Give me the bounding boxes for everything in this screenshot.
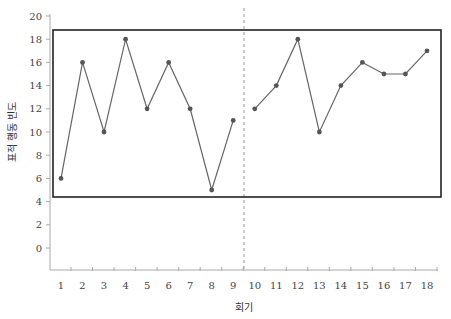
data-point <box>59 176 64 181</box>
data-point <box>80 60 85 65</box>
data-series <box>59 37 430 193</box>
y-tick-label: 20 <box>29 11 42 22</box>
data-point <box>295 37 300 42</box>
x-tick-label: 2 <box>79 280 85 291</box>
x-tick-label: 10 <box>248 280 261 291</box>
data-point <box>338 83 343 88</box>
y-tick-label: 12 <box>29 103 42 114</box>
data-point <box>317 130 322 135</box>
x-tick-label: 6 <box>165 280 171 291</box>
series-line-phase-A <box>61 39 233 190</box>
y-axis-title: 표적 행동 빈도 <box>7 102 18 162</box>
data-point <box>382 72 387 77</box>
x-tick-label: 9 <box>230 280 236 291</box>
y-tick-label: 8 <box>36 150 42 161</box>
x-tick-label: 12 <box>291 280 304 291</box>
bounding-rectangle <box>53 30 441 197</box>
data-point <box>188 106 193 111</box>
y-tick-label: 14 <box>29 80 42 91</box>
x-tick-label: 17 <box>399 280 412 291</box>
data-point <box>403 72 408 77</box>
data-point <box>123 37 128 42</box>
x-tick-label: 14 <box>335 280 348 291</box>
annotation-box <box>53 30 441 197</box>
x-tick-label: 4 <box>122 280 128 291</box>
data-point <box>252 106 257 111</box>
y-tick-label: 0 <box>36 243 42 254</box>
data-point <box>166 60 171 65</box>
y-tick-label: 16 <box>29 57 42 68</box>
data-point <box>274 83 279 88</box>
x-tick-label: 3 <box>101 280 107 291</box>
y-axis: 02468101214161820 <box>29 11 50 271</box>
x-tick-label: 8 <box>209 280 215 291</box>
x-tick-label: 13 <box>313 280 326 291</box>
x-tick-label: 5 <box>144 280 150 291</box>
data-point <box>102 130 107 135</box>
data-point <box>231 118 236 123</box>
y-tick-label: 2 <box>36 219 42 230</box>
data-point <box>360 60 365 65</box>
y-tick-label: 10 <box>29 127 42 138</box>
data-point <box>145 106 150 111</box>
x-tick-label: 1 <box>58 280 64 291</box>
y-tick-label: 18 <box>29 34 42 45</box>
x-tick-label: 7 <box>187 280 193 291</box>
x-tick-label: 15 <box>356 280 369 291</box>
x-tick-label: 18 <box>421 280 434 291</box>
data-point <box>209 188 214 193</box>
line-chart: 02468101214161820 1234567891011121314151… <box>0 0 451 319</box>
data-point <box>425 48 430 53</box>
y-tick-label: 6 <box>36 173 42 184</box>
x-tick-label: 11 <box>270 280 283 291</box>
y-tick-label: 4 <box>36 196 42 207</box>
x-tick-label: 16 <box>378 280 391 291</box>
x-axis: 123456789101112131415161718 <box>50 267 438 291</box>
x-axis-title: 회기 <box>235 302 253 313</box>
